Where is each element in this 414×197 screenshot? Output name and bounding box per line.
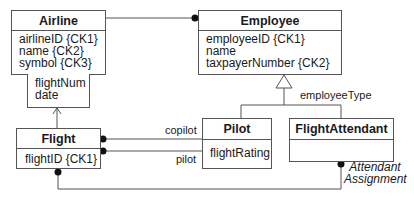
qualifier-attribute: date <box>35 89 89 101</box>
class-pilot: Pilot flightRating <box>202 118 272 169</box>
association-name-label: Attendant Assignment <box>344 161 406 185</box>
class-name: Airline <box>12 11 105 31</box>
class-attributes: airlineID {CK1} name {CK2} symbol {CK3} <box>12 31 105 69</box>
class-attributes <box>290 140 393 142</box>
class-name: Employee <box>199 11 341 31</box>
copilot-role-label: copilot <box>165 124 197 136</box>
many-multiplicity-dot-icon <box>55 169 62 176</box>
generalization-triangle-icon <box>276 75 292 88</box>
class-employee: Employee employeeID {CK1} name taxpayerN… <box>198 10 342 75</box>
discriminator-label: employeeType <box>300 89 372 101</box>
generalization-branches <box>241 105 341 118</box>
class-name: Flight <box>17 129 100 149</box>
attribute: taxpayerNumber {CK2} <box>206 57 341 69</box>
class-name: FlightAttendant <box>290 119 393 140</box>
class-flight: Flight flightID {CK1} <box>16 128 101 169</box>
attribute: symbol {CK3} <box>19 57 105 69</box>
pilot-role-label: pilot <box>176 153 196 165</box>
qualifier-box: flightNum date <box>27 74 90 108</box>
attribute: flightRating <box>210 147 271 159</box>
class-attributes: flightID {CK1} <box>17 149 100 165</box>
class-attributes: employeeID {CK1} name taxpayerNumber {CK… <box>199 31 341 69</box>
class-name: Pilot <box>203 119 271 140</box>
attribute: flightID {CK1} <box>25 153 100 165</box>
class-airline: Airline airlineID {CK1} name {CK2} symbo… <box>11 10 106 75</box>
class-flight-attendant: FlightAttendant <box>289 118 394 162</box>
class-attributes: flightRating <box>203 140 271 159</box>
